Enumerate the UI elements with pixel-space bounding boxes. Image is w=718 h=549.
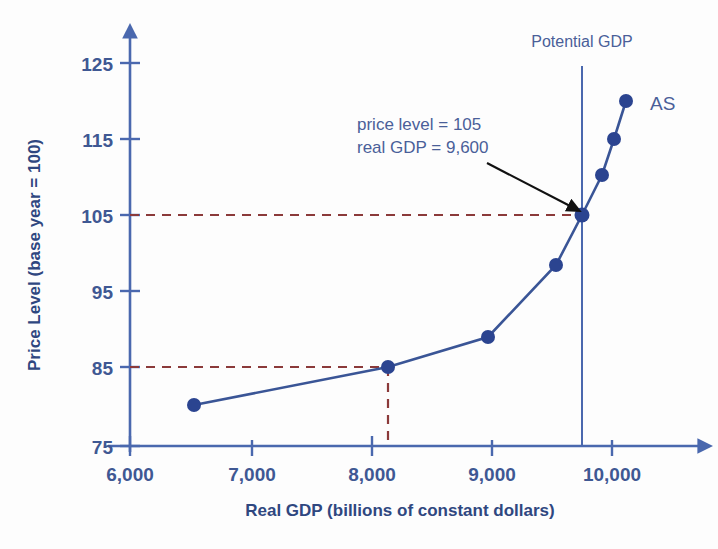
callout-line-2: real GDP = 9,600 bbox=[357, 138, 489, 157]
y-tick-label-75: 75 bbox=[92, 437, 114, 458]
y-tick-label-115: 115 bbox=[82, 130, 113, 151]
data-point bbox=[619, 94, 633, 108]
y-tick-label-95: 95 bbox=[92, 282, 114, 303]
y-tick-label-105: 105 bbox=[81, 206, 113, 227]
x-tick-label-9000: 9,000 bbox=[468, 464, 516, 485]
as-curve-label: AS bbox=[650, 93, 675, 114]
data-point bbox=[481, 330, 495, 344]
chart-canvas: 125 115 105 95 85 75 6,000 7,000 8,000 9… bbox=[0, 0, 718, 549]
y-axis-title: Price Level (base year = 100) bbox=[25, 139, 44, 371]
x-axis-title: Real GDP (billions of constant dollars) bbox=[245, 501, 555, 520]
data-point bbox=[595, 168, 609, 182]
y-tick-label-125: 125 bbox=[81, 54, 113, 75]
callout-arrow bbox=[487, 163, 572, 207]
x-tick-label-10000: 10,000 bbox=[583, 464, 641, 485]
x-tick-label-8000: 8,000 bbox=[348, 464, 396, 485]
x-tick-label-6000: 6,000 bbox=[106, 464, 154, 485]
data-point bbox=[607, 132, 621, 146]
x-tick-label-7000: 7,000 bbox=[228, 464, 276, 485]
data-point-equilibrium bbox=[575, 208, 590, 223]
y-tick-label-85: 85 bbox=[92, 358, 114, 379]
potential-gdp-label: Potential GDP bbox=[531, 33, 632, 50]
callout-line-1: price level = 105 bbox=[357, 115, 481, 134]
data-point bbox=[187, 398, 201, 412]
data-point bbox=[549, 258, 563, 272]
data-point bbox=[381, 360, 395, 374]
as-curve-chart: 125 115 105 95 85 75 6,000 7,000 8,000 9… bbox=[0, 0, 718, 549]
